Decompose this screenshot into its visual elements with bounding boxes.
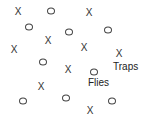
fly-marker-icon — [104, 27, 112, 34]
fly-marker-icon — [62, 95, 70, 102]
fly-marker-icon — [19, 98, 27, 105]
trap-marker-icon: X — [15, 7, 22, 17]
trap-marker-icon: X — [116, 49, 123, 59]
trap-marker-icon: X — [81, 43, 88, 53]
trap-marker-icon: X — [45, 36, 52, 46]
fly-marker-icon — [90, 69, 98, 76]
trap-marker-icon: X — [86, 8, 93, 18]
trap-marker-icon: X — [38, 82, 45, 92]
fly-marker-icon — [25, 24, 33, 31]
trap-marker-icon: X — [87, 106, 94, 116]
fly-marker-icon — [65, 29, 73, 36]
fly-marker-icon — [108, 98, 116, 105]
fly-marker-icon — [47, 8, 55, 15]
trap-marker-icon: X — [65, 65, 72, 75]
traps-label: Traps — [113, 62, 138, 72]
trap-marker-icon: X — [11, 45, 18, 55]
flies-label: Flies — [88, 78, 109, 88]
flies-traps-diagram: Traps Flies XXXXXXXXX — [0, 0, 150, 123]
fly-marker-icon — [39, 59, 47, 66]
